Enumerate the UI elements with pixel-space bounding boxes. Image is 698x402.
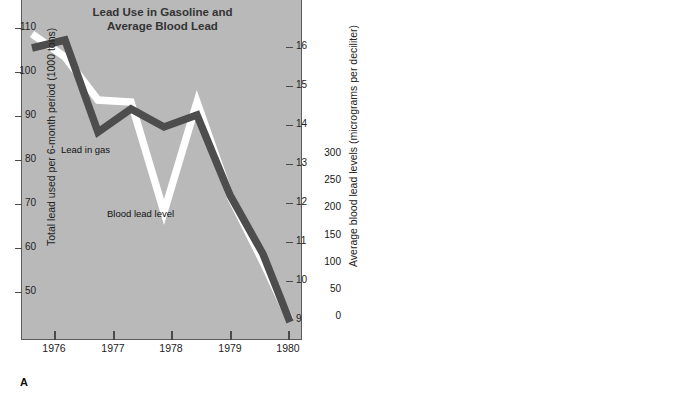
chart-a-right-tick-label: 9 <box>296 313 302 324</box>
chart-b-y-tick-label: 250 <box>324 174 341 185</box>
chart-a-x-tick <box>288 331 290 340</box>
chart-a-right-tick-label: 13 <box>296 157 307 168</box>
chart-a-x-tick <box>230 331 232 340</box>
chart-a-x-tick <box>171 331 173 340</box>
chart-a-right-tick <box>286 86 293 87</box>
chart-a-right-tick <box>286 47 293 48</box>
chart-a-x-tick <box>113 331 115 340</box>
annotation-blood-lead-level: Blood lead level <box>107 208 174 219</box>
chart-a-right-tick <box>286 203 293 204</box>
chart-a-right-tick-label: 12 <box>296 196 307 207</box>
chart-a-x-tick-label: 1979 <box>205 342 255 354</box>
chart-a-left-tick <box>15 160 22 161</box>
chart-a-right-tick-label: 11 <box>296 235 306 246</box>
chart-a-left-tick <box>15 204 22 205</box>
chart-a-x-tick-label: 1977 <box>88 342 138 354</box>
chart-a-plot-area <box>21 0 302 340</box>
chart-a-right-tick <box>286 320 293 321</box>
chart-a-left-tick-label: 80 <box>25 153 36 164</box>
chart-a-left-tick <box>15 116 22 117</box>
figure-label-a: A <box>20 376 28 388</box>
annotation-lead-in-gas: Lead in gas <box>61 144 110 155</box>
chart-a-y-axis-left-title: Total lead used per 6-month period (1000… <box>45 56 57 246</box>
series-blood-lead-level <box>32 34 290 320</box>
figure-panel-a: Lead Use in Gasoline and Average Blood L… <box>0 0 340 402</box>
chart-b-y-tick-label: 300 <box>324 147 341 158</box>
chart-a-right-tick-label: 16 <box>296 40 307 51</box>
chart-a-x-tick-label: 1978 <box>146 342 196 354</box>
chart-a-left-tick-label: 50 <box>25 285 36 296</box>
chart-a-x-tick <box>54 331 56 340</box>
chart-a-left-tick-label: 60 <box>25 241 36 252</box>
series-lead-in-gas <box>32 40 290 322</box>
chart-b-y-tick-label: 50 <box>330 283 341 294</box>
figure-panel-b: 300 250 200 150 100 50 0 Emissions (mill… <box>348 0 698 402</box>
chart-a-left-tick <box>15 292 22 293</box>
chart-a-title-line2: Average Blood Lead <box>40 19 285 33</box>
chart-a-right-tick-label: 10 <box>296 274 307 285</box>
chart-a-right-tick <box>286 125 293 126</box>
chart-b-y-tick-label: 200 <box>324 201 341 212</box>
chart-a-left-tick <box>15 248 22 249</box>
chart-b-y-tick-label: 0 <box>335 310 341 321</box>
chart-a-right-tick <box>286 164 293 165</box>
chart-a-title: Lead Use in Gasoline and Average Blood L… <box>40 5 285 33</box>
chart-a-lines-svg <box>22 0 300 337</box>
chart-a-left-tick-label: 100 <box>19 65 36 76</box>
chart-a-right-tick <box>286 242 293 243</box>
chart-a-left-tick-label: 110 <box>20 21 36 32</box>
chart-a-x-tick-label: 1980 <box>263 342 313 354</box>
chart-a-right-tick-label: 14 <box>296 118 307 129</box>
chart-b-y-tick-label: 150 <box>324 229 341 240</box>
chart-a-right-tick <box>286 281 293 282</box>
chart-a-left-tick-label: 70 <box>25 197 36 208</box>
chart-a-title-line1: Lead Use in Gasoline and <box>40 5 285 19</box>
chart-a-right-tick-label: 15 <box>296 79 307 90</box>
chart-a-left-tick-label: 90 <box>25 109 36 120</box>
chart-a-x-tick-label: 1976 <box>29 342 79 354</box>
chart-b-y-tick-label: 100 <box>324 256 341 267</box>
